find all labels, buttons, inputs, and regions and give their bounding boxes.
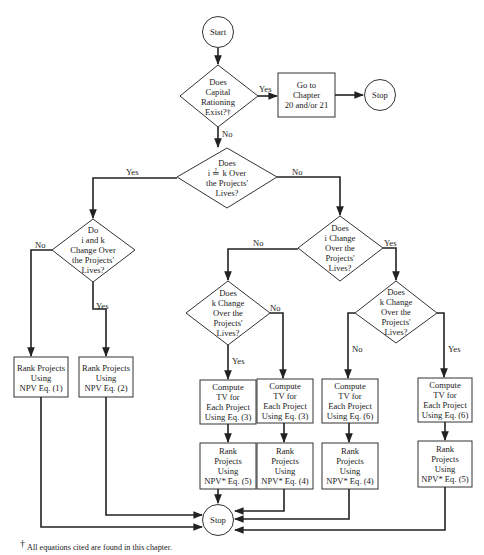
process-line: 20 and/or 21	[278, 100, 335, 110]
start-label: Start	[210, 27, 226, 37]
process-line: NPV* Eq. (4)	[257, 476, 313, 486]
process-line: NPV* Eq. (5)	[200, 476, 256, 486]
decision-line: Change Over	[63, 245, 123, 255]
process-line: Using	[418, 464, 472, 474]
go-chapter-process: Go to Chapter 20 and/or 21	[278, 80, 335, 110]
process-line: Using Eq. (6)	[322, 411, 378, 421]
process-line: TV for	[257, 391, 313, 401]
decision-line: i ≟ k Over	[192, 168, 262, 178]
process-line: Projects	[200, 456, 256, 466]
decision-line: Projects'	[366, 317, 426, 327]
process-line: Using	[14, 373, 68, 383]
process-line: NPV* Eq. (5)	[418, 474, 472, 484]
footnote: †All equations cited are found in this c…	[20, 538, 172, 552]
process-line: Using	[322, 466, 378, 476]
process-line: Each Project	[200, 402, 256, 412]
rank-npvs4-a-process: Rank Projects Using NPV* Eq. (4)	[257, 446, 313, 486]
edge-label-capital-no: No	[222, 129, 233, 139]
decision-line: Lives?	[198, 328, 258, 338]
process-line: Projects	[322, 456, 378, 466]
process-line: Using	[200, 466, 256, 476]
edge-label-ichange-yes: Yes	[384, 238, 397, 248]
process-line: Using	[257, 466, 313, 476]
edge-label-ichange-no: No	[253, 238, 264, 248]
process-line: Each Project	[418, 400, 472, 410]
process-line: NPV Eq. (2)	[79, 383, 133, 393]
decision-line: Over the	[198, 308, 258, 318]
decision-line: Do	[63, 225, 123, 235]
process-line: Go to	[278, 80, 335, 90]
compute-tv6-b-process: Compute TV for Each Project Using Eq. (6…	[418, 380, 472, 420]
capital-rationing-decision: Does Capital Rationing Exist?†	[188, 77, 248, 117]
process-line: Using Eq. (3)	[257, 411, 313, 421]
decision-line: Does	[192, 158, 262, 168]
i-and-k-change-decision: Do i and k Change Over the Projects' Liv…	[63, 225, 123, 275]
stop-label: Stop	[210, 515, 226, 525]
decision-line: Lives?	[63, 265, 123, 275]
process-line: Compute	[257, 381, 313, 391]
decision-line: Projects'	[310, 253, 370, 263]
process-line: Using	[79, 373, 133, 383]
decision-line: Does	[366, 287, 426, 297]
process-line: Each Project	[322, 401, 378, 411]
start-node: Start	[203, 27, 233, 37]
stop-label: Stop	[372, 90, 388, 100]
process-line: Chapter	[278, 90, 335, 100]
i-eq-k-decision: Does i ≟ k Over the Projects' Lives?	[192, 158, 262, 198]
decision-line: Lives?	[310, 263, 370, 273]
process-line: Rank	[200, 446, 256, 456]
process-line: Using Eq. (3)	[200, 412, 256, 422]
decision-line: Over the	[310, 243, 370, 253]
edge-label-kright-no: No	[352, 344, 363, 354]
decision-line: k Change	[198, 298, 258, 308]
decision-line: Does	[198, 288, 258, 298]
i-change-decision: Does i Change Over the Projects' Lives?	[310, 223, 370, 273]
stop-top-node: Stop	[365, 90, 395, 100]
process-line: TV for	[322, 391, 378, 401]
process-line: Projects	[418, 454, 472, 464]
process-line: Rank	[322, 446, 378, 456]
decision-line: i Change	[310, 233, 370, 243]
process-line: Rank Projects	[79, 363, 133, 373]
decision-line: Over the	[366, 307, 426, 317]
process-line: Compute	[418, 380, 472, 390]
decision-line: Does	[310, 223, 370, 233]
k-change-left-decision: Does k Change Over the Projects' Lives?	[198, 288, 258, 338]
process-line: Compute	[200, 382, 256, 392]
process-line: Using Eq. (6)	[418, 410, 472, 420]
process-line: Projects	[257, 456, 313, 466]
decision-line: the Projects'	[192, 178, 262, 188]
decision-line: Projects'	[198, 318, 258, 328]
k-change-right-decision: Does k Change Over the Projects' Lives?	[366, 287, 426, 337]
decision-line: k Change	[366, 297, 426, 307]
decision-line: Lives?	[366, 327, 426, 337]
decision-line: Exist?†	[188, 107, 248, 117]
process-line: NPV Eq. (1)	[14, 383, 68, 393]
decision-line: Capital	[188, 87, 248, 97]
compute-tv6-a-process: Compute TV for Each Project Using Eq. (6…	[322, 381, 378, 421]
rank-npv2-process: Rank Projects Using NPV Eq. (2)	[79, 363, 133, 393]
decision-line: the Projects'	[63, 255, 123, 265]
process-line: Compute	[322, 381, 378, 391]
decision-line: Rationing	[188, 97, 248, 107]
rank-npvs5-b-process: Rank Projects Using NPV* Eq. (5)	[418, 444, 472, 484]
process-line: TV for	[418, 390, 472, 400]
edge-label-iandk-yes: Yes	[96, 301, 109, 311]
process-line: NPV* Eq. (4)	[322, 476, 378, 486]
edge-label-ieqk-yes: Yes	[126, 167, 139, 177]
decision-line: Lives?	[192, 188, 262, 198]
footnote-text: All equations cited are found in this ch…	[27, 543, 172, 552]
decision-line: i and k	[63, 235, 123, 245]
edge-label-ieqk-no: No	[292, 167, 303, 177]
edge-label-kleft-no: No	[270, 303, 281, 313]
rank-npv1-process: Rank Projects Using NPV Eq. (1)	[14, 363, 68, 393]
edge-label-kleft-yes: Yes	[232, 356, 245, 366]
rank-npvs4-b-process: Rank Projects Using NPV* Eq. (4)	[322, 446, 378, 486]
edge-label-iandk-no: No	[35, 240, 46, 250]
edge-label-capital-yes: Yes	[259, 84, 272, 94]
footnote-mark: †	[20, 538, 25, 549]
rank-npvs5-a-process: Rank Projects Using NPV* Eq. (5)	[200, 446, 256, 486]
decision-line: Does	[188, 77, 248, 87]
process-line: Rank Projects	[14, 363, 68, 373]
compute-tv3-b-process: Compute TV for Each Project Using Eq. (3…	[257, 381, 313, 421]
